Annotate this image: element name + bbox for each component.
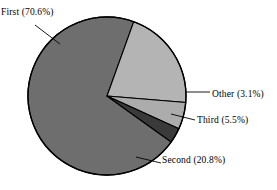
pie-label-first: First (70.6%) [1, 7, 54, 18]
pie-label-other: Other (3.1%) [212, 89, 264, 100]
pie-label-third: Third (5.5%) [197, 115, 248, 126]
pie-label-second: Second (20.8%) [162, 155, 225, 166]
pie-chart-figure: First (70.6%) Other (3.1%) Third (5.5%) … [0, 0, 277, 190]
leader-line-first [35, 25, 60, 44]
